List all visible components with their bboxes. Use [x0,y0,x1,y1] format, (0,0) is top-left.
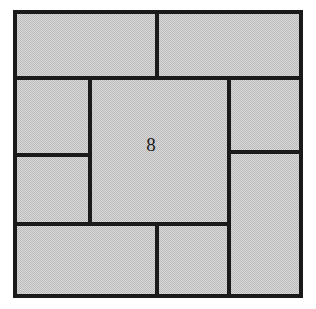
diagram-canvas: 8 [0,0,316,309]
tile-right-lower [229,152,301,296]
square-dissection-figure: 8 [0,0,316,309]
tile-right-upper [229,78,301,152]
tile-bottom-left [15,224,157,296]
labels-layer: 8 [146,134,156,155]
tile-center [90,78,229,224]
tile-bottom-middle [157,224,229,296]
tile-left-upper [15,78,90,155]
center-tile-number: 8 [146,134,156,155]
tile-left-lower [15,155,90,224]
tile-top-left [15,12,157,78]
tiles-layer [15,12,301,296]
tile-top-right [157,12,301,78]
